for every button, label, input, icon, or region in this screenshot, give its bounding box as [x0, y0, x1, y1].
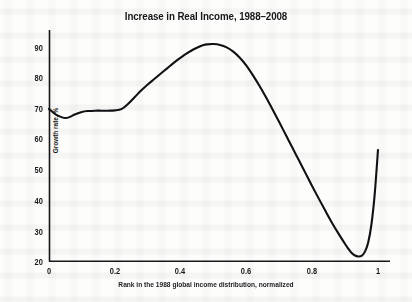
data-line-real-income-growth — [49, 44, 378, 256]
chart-figure: Increase in Real Income, 1988–2008 Growt… — [0, 0, 412, 302]
plot-area — [0, 0, 412, 302]
